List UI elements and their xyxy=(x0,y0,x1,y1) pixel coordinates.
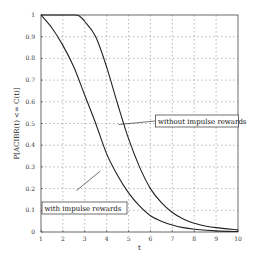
y-tick-label: 0.8 xyxy=(25,54,35,61)
y-tick-label: 0.5 xyxy=(25,120,35,127)
x-tick-label: 10 xyxy=(234,235,242,242)
y-tick-label: 1 xyxy=(31,11,35,18)
y-tick-label: 0.4 xyxy=(25,141,35,148)
x-axis-label: t xyxy=(138,244,141,252)
x-tick-label: 5 xyxy=(127,235,131,242)
x-tick-label: 9 xyxy=(214,235,218,242)
y-tick-label: 0 xyxy=(31,228,35,235)
y-tick-label: 0.6 xyxy=(25,98,35,105)
y-axis-label: P[ACIBR(t) <= C(t)] xyxy=(13,87,21,159)
x-tick-label: 2 xyxy=(61,235,65,242)
x-tick-label: 8 xyxy=(192,235,196,242)
y-tick-label: 0.3 xyxy=(25,163,35,170)
annotation-text: with impulse rewards xyxy=(45,205,122,213)
x-tick-label: 1 xyxy=(39,235,43,242)
y-tick-label: 0.1 xyxy=(25,206,35,213)
chart: 00.10.20.30.40.50.60.70.80.91 1234567891… xyxy=(0,0,253,264)
y-tick-label: 0.7 xyxy=(25,76,35,83)
y-tick-label: 0.2 xyxy=(25,185,35,192)
annotation-text: without impulse rewards xyxy=(158,118,247,126)
x-tick-label: 6 xyxy=(149,235,153,242)
y-tick-label: 0.9 xyxy=(25,33,35,40)
x-tick-label: 4 xyxy=(105,235,109,242)
x-tick-label: 7 xyxy=(170,235,174,242)
x-tick-label: 3 xyxy=(83,235,87,242)
